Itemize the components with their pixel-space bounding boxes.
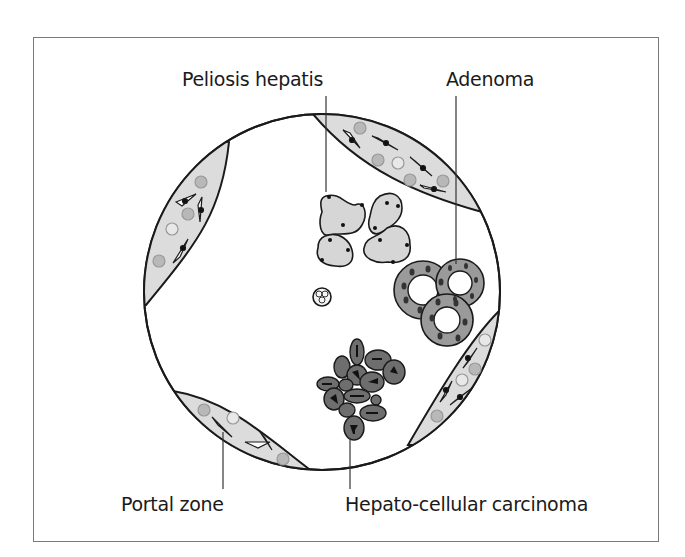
small-cell <box>313 288 331 306</box>
label-peliosis-hepatis: Peliosis hepatis <box>182 68 323 90</box>
label-hepatocellular-carcinoma: Hepato-cellular carcinoma <box>345 493 588 515</box>
label-portal-zone: Portal zone <box>121 493 224 515</box>
label-adenoma: Adenoma <box>446 68 534 90</box>
liver-lesion-diagram <box>0 0 685 557</box>
